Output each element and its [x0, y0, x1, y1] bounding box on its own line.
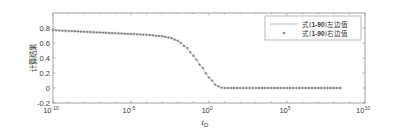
asterisk-marker: [117, 32, 120, 35]
y-tick-label: 0.8: [40, 24, 50, 33]
x-tick-label: 10-10: [43, 105, 59, 115]
asterisk-marker: [311, 87, 314, 90]
asterisk-marker: [114, 32, 117, 35]
asterisk-marker: [264, 87, 267, 90]
asterisk-marker: [245, 87, 248, 90]
asterisk-marker: [270, 87, 273, 90]
asterisk-marker: [127, 33, 130, 36]
asterisk-marker: [102, 31, 105, 34]
asterisk-marker: [52, 29, 55, 32]
asterisk-marker: [333, 87, 336, 90]
asterisk-marker: [276, 87, 279, 90]
asterisk-marker: [323, 87, 326, 90]
asterisk-marker: [239, 87, 242, 90]
y-axis-label: 计算结果: [28, 43, 38, 72]
asterisk-marker: [67, 30, 70, 33]
asterisk-marker: [208, 76, 211, 79]
asterisk-marker: [180, 42, 183, 45]
asterisk-marker: [242, 87, 245, 90]
asterisk-marker: [195, 58, 198, 61]
asterisk-marker: [136, 33, 139, 36]
asterisk-marker: [80, 30, 83, 33]
asterisk-marker: [217, 85, 220, 88]
asterisk-marker: [261, 87, 264, 90]
asterisk-marker: [55, 29, 58, 32]
asterisk-marker: [95, 31, 98, 34]
asterisk-marker: [164, 36, 167, 39]
asterisk-marker: [148, 34, 151, 37]
asterisk-marker: [89, 31, 92, 34]
y-tick-labels: -0.200.20.40.60.8: [37, 24, 50, 108]
asterisk-marker: [326, 87, 329, 90]
asterisk-marker: [152, 34, 155, 37]
asterisk-marker: [183, 45, 186, 48]
asterisk-marker: [201, 67, 204, 70]
asterisk-marker: [308, 87, 311, 90]
asterisk-marker: [130, 33, 133, 36]
asterisk-marker: [267, 87, 270, 90]
asterisk-marker: [230, 87, 233, 90]
asterisk-marker: [158, 35, 161, 38]
asterisk-marker: [339, 87, 342, 90]
asterisk-marker: [214, 83, 217, 86]
x-tick-label: 1010: [356, 105, 370, 115]
asterisk-marker: [161, 35, 164, 38]
asterisk-marker: [289, 87, 292, 90]
legend-label: 式(1-90)左边值: [302, 20, 348, 29]
x-tick-label: 105: [279, 105, 290, 115]
chart: -0.200.20.40.60.8 10-1010-51001051010 计算…: [0, 0, 394, 138]
asterisk-marker: [120, 32, 123, 35]
asterisk-marker: [273, 87, 276, 90]
asterisk-marker: [61, 29, 64, 32]
asterisk-marker: [58, 29, 61, 32]
legend-label: 式(1-90)右边值: [302, 29, 348, 38]
x-axis-label: tD: [202, 117, 210, 128]
asterisk-marker: [233, 87, 236, 90]
legend: 式(1-90)左边值式(1-90)右边值: [265, 16, 361, 40]
x-tick-label: 10-5: [123, 105, 136, 115]
asterisk-marker: [105, 31, 108, 34]
asterisk-marker: [123, 32, 126, 35]
asterisk-marker: [220, 86, 223, 89]
asterisk-marker: [295, 87, 298, 90]
asterisk-marker: [301, 87, 304, 90]
asterisk-marker: [304, 87, 307, 90]
asterisk-marker: [139, 33, 142, 36]
asterisk-marker: [111, 32, 114, 35]
asterisk-marker: [108, 32, 111, 35]
x-tick-label: 100: [201, 105, 212, 115]
asterisk-marker: [336, 87, 339, 90]
asterisk-marker: [329, 87, 332, 90]
y-tick-label: 0.4: [40, 54, 50, 63]
asterisk-marker: [83, 30, 86, 33]
asterisk-marker: [320, 87, 323, 90]
asterisk-marker: [198, 63, 201, 66]
asterisk-marker: [205, 72, 208, 75]
asterisk-marker: [248, 87, 251, 90]
asterisk-marker: [286, 87, 289, 90]
asterisk-marker: [192, 54, 195, 57]
asterisk-marker: [74, 30, 77, 33]
asterisk-marker: [92, 31, 95, 34]
asterisk-marker: [64, 30, 67, 33]
asterisk-marker: [314, 87, 317, 90]
asterisk-marker: [155, 34, 158, 37]
asterisk-marker: [177, 39, 180, 42]
y-tick-label: 0: [46, 84, 50, 93]
asterisk-marker: [99, 31, 102, 34]
y-tick-label: 0.6: [40, 39, 50, 48]
asterisk-marker: [292, 87, 295, 90]
asterisk-marker: [283, 32, 286, 35]
asterisk-marker: [173, 38, 176, 41]
asterisk-marker: [142, 33, 145, 36]
x-tick-labels: 10-1010-51001051010: [43, 105, 370, 115]
y-tick-label: 0.2: [40, 69, 50, 78]
asterisk-marker: [279, 87, 282, 90]
asterisk-marker: [251, 87, 254, 90]
asterisk-marker: [170, 37, 173, 40]
asterisk-marker: [223, 87, 226, 90]
asterisk-marker: [298, 87, 301, 90]
asterisk-marker: [255, 87, 258, 90]
asterisk-marker: [186, 47, 189, 50]
asterisk-marker: [189, 51, 192, 54]
